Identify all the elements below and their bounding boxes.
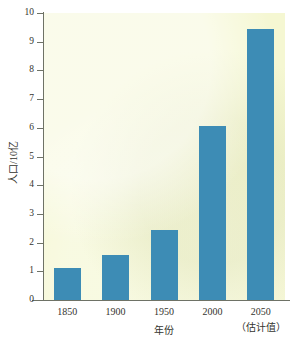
y-tick-label: 10 xyxy=(6,8,34,18)
population-bar-chart: 人口/10亿 012345678910 18501900195020002050… xyxy=(0,0,296,344)
y-tick-mark xyxy=(37,42,43,43)
y-tick-mark xyxy=(37,300,43,301)
y-axis-line xyxy=(43,12,44,301)
y-tick-label: 2 xyxy=(6,238,34,248)
bar xyxy=(199,126,226,300)
bar xyxy=(102,255,129,300)
x-tick-sublabel: （估计值） xyxy=(225,322,296,334)
y-tick-label: 5 xyxy=(6,152,34,162)
y-tick-mark xyxy=(37,99,43,100)
y-tick-label: 3 xyxy=(6,209,34,219)
y-tick-label: 6 xyxy=(6,123,34,133)
y-tick-label: 0 xyxy=(6,295,34,305)
x-axis-line xyxy=(32,300,290,301)
x-tick-label: 2050 xyxy=(233,306,289,318)
y-tick-label: 4 xyxy=(6,180,34,190)
y-tick-mark xyxy=(37,243,43,244)
y-tick-label: 7 xyxy=(6,94,34,104)
y-tick-mark xyxy=(37,128,43,129)
x-axis-title: 年份 xyxy=(132,322,196,337)
y-tick-mark xyxy=(37,157,43,158)
y-tick-mark xyxy=(37,185,43,186)
bar xyxy=(247,29,274,300)
bar xyxy=(151,230,178,300)
bar xyxy=(54,268,81,300)
y-tick-mark xyxy=(37,70,43,71)
y-tick-mark xyxy=(37,13,43,14)
y-tick-mark xyxy=(37,214,43,215)
y-tick-mark xyxy=(37,271,43,272)
y-tick-label: 8 xyxy=(6,65,34,75)
y-tick-label: 1 xyxy=(6,266,34,276)
y-tick-label: 9 xyxy=(6,37,34,47)
